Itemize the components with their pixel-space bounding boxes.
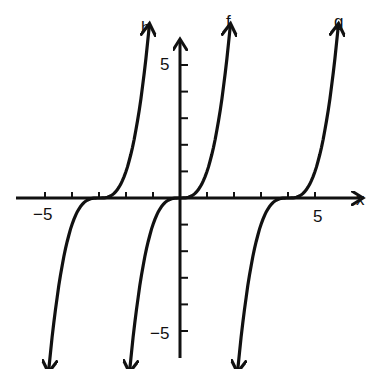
x-axis-label: x [356, 190, 365, 209]
curve-label-f: f [226, 12, 231, 31]
y-tick-label-5: 5 [160, 55, 169, 74]
curve-label-h: h [141, 18, 150, 37]
x-tick-label-neg5: −5 [33, 205, 52, 224]
y-tick-label-neg5: −5 [150, 324, 169, 343]
x-tick-label-5: 5 [313, 207, 322, 226]
curve-label-g: g [334, 12, 343, 31]
chart: x −5 5 5 −5 h f g [0, 0, 377, 369]
